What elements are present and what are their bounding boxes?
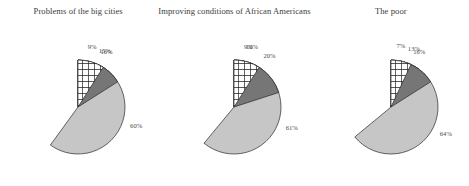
slice-label-2: 64% — [440, 130, 452, 138]
slice-label-4: 9% — [88, 43, 97, 51]
chart-panel-the-poor: The poor 13% 64% 16% 7% — [313, 0, 469, 186]
slice-label-2: 60% — [130, 122, 142, 130]
pie-chart-svg — [28, 57, 128, 157]
slice-label-4: 7% — [397, 42, 406, 50]
chart-panel-problems-of-the-big-cities: Problems of the big cities 15% 60% 16% 9… — [0, 0, 156, 186]
chart-panel-improving-conditions-of-african-americans: Improving conditions of African American… — [156, 0, 312, 186]
slice-label-2: 61% — [286, 124, 298, 132]
slice-label-4: 9% — [244, 43, 253, 51]
pie-chart-svg — [184, 57, 284, 157]
pie-container — [0, 0, 156, 186]
pie-container — [156, 0, 312, 186]
pie-container — [313, 0, 469, 186]
slice-label-3: 16% — [101, 48, 113, 56]
pie-chart-svg — [341, 57, 441, 157]
slice-label-3: 20% — [264, 52, 276, 60]
pie-chart-row: Problems of the big cities 15% 60% 16% 9… — [0, 0, 469, 186]
slice-label-3: 16% — [413, 48, 425, 56]
